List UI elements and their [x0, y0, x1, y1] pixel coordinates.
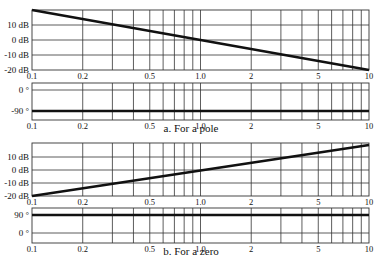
- y-tick-label: 0 °: [19, 228, 30, 238]
- caption-zero: b. For a zero: [0, 245, 382, 257]
- y-tick-label: 10 dB: [7, 20, 29, 30]
- x-tick-label: 0.1: [27, 71, 38, 81]
- x-tick-label: 0.5: [144, 197, 155, 207]
- x-tick-label: 2: [249, 71, 253, 81]
- x-tick-label: 0.2: [77, 71, 88, 81]
- y-tick-label: 0 °: [19, 85, 30, 95]
- x-tick-label: 5: [316, 71, 320, 81]
- x-tick-label: 10: [365, 71, 374, 81]
- y-tick-label: 0 dB: [12, 35, 29, 45]
- y-tick-label: 10 dB: [7, 152, 29, 162]
- y-tick-label: 90 °: [14, 210, 29, 220]
- x-tick-label: 1.0: [195, 71, 206, 81]
- zero-magnitude-plot: 10 dB0 dB-10 dB-20 dB0.10.20.51.02510: [4, 143, 373, 207]
- y-tick-label: 0 dB: [12, 165, 29, 175]
- y-tick-label: -10 dB: [4, 178, 29, 188]
- y-tick-label: -90 °: [11, 106, 29, 116]
- x-tick-label: 0.2: [77, 197, 88, 207]
- caption-pole: a. For a pole: [0, 122, 382, 134]
- x-tick-label: 1.0: [195, 197, 206, 207]
- x-tick-label: 0.1: [27, 197, 38, 207]
- y-tick-label: -10 dB: [4, 50, 29, 60]
- y-tick-label: -20 dB: [4, 65, 29, 75]
- x-tick-label: 10: [365, 197, 374, 207]
- x-tick-label: 5: [316, 197, 320, 207]
- pole-magnitude-plot: 10 dB0 dB-10 dB-20 dB0.10.20.51.02510: [4, 10, 373, 81]
- x-tick-label: 0.5: [144, 71, 155, 81]
- y-tick-label: -20 dB: [4, 191, 29, 201]
- x-tick-label: 2: [249, 197, 253, 207]
